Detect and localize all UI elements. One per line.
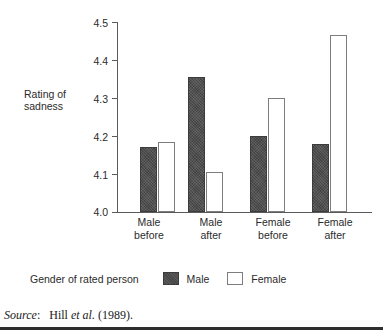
bar-female-female-after xyxy=(330,35,347,212)
bar-male-female-after xyxy=(312,144,329,212)
y-axis-title-line2: sadness xyxy=(24,100,104,112)
y-tick-label-4-4: 4.4 xyxy=(0,55,108,67)
bar-female-female-before xyxy=(268,98,285,212)
source-colon: : xyxy=(37,308,40,322)
legend-swatch-male-icon xyxy=(163,272,179,285)
y-tick-label-4-0: 4.0 xyxy=(0,206,108,218)
source-author: Hill xyxy=(49,308,68,322)
y-tick-label-4-2: 4.2 xyxy=(0,131,108,143)
x-category-female-after-line2: after xyxy=(295,229,375,242)
bar-male-female-before xyxy=(250,136,267,212)
x-axis-line xyxy=(117,212,372,213)
legend-label-male: Male xyxy=(187,273,210,285)
y-axis-title: Rating of sadness xyxy=(24,88,104,112)
legend-swatch-female-icon xyxy=(227,272,243,285)
legend-title: Gender of rated person xyxy=(30,273,139,285)
y-tick-label-4-1: 4.1 xyxy=(0,169,108,181)
source-etal: et al. xyxy=(71,308,95,322)
bottom-rule xyxy=(0,327,383,330)
x-category-female-after: Female after xyxy=(295,216,375,241)
bar-male-male-after xyxy=(188,77,205,212)
figure-bar-chart: 4.5 4.4 4.3 4.2 4.1 4.0 Rating of sadnes… xyxy=(0,0,383,335)
legend-entry-male: Male xyxy=(163,272,210,285)
plot-area xyxy=(117,22,372,212)
y-tick-label-4-5: 4.5 xyxy=(0,17,108,29)
source-year: (1989). xyxy=(98,308,133,322)
legend-entry-female: Female xyxy=(227,272,286,285)
x-category-female-after-line1: Female xyxy=(295,216,375,229)
bar-male-male-before xyxy=(140,147,157,212)
source-label: Source xyxy=(4,308,37,322)
y-axis-tick-4-0 xyxy=(112,212,117,213)
y-axis-title-line1: Rating of xyxy=(24,88,104,100)
source-note: Source:Hill et al. (1989). xyxy=(4,308,133,323)
legend: Gender of rated person Male Female xyxy=(30,272,304,285)
bar-female-male-after xyxy=(206,172,223,212)
bar-female-male-before xyxy=(158,142,175,212)
legend-label-female: Female xyxy=(251,273,286,285)
